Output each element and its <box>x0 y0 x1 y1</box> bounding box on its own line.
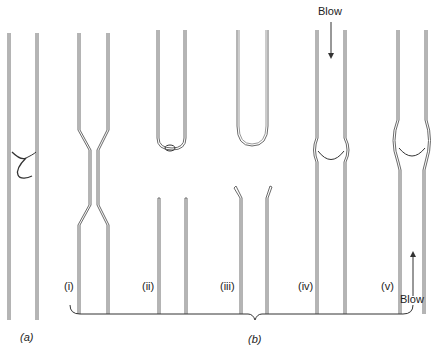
blow-label-v: Blow <box>400 293 424 305</box>
tube-iii-lower <box>234 186 272 314</box>
label-step-i: (i) <box>64 280 74 292</box>
glass-tube-diagram <box>0 0 439 357</box>
tube-a <box>8 33 38 320</box>
label-step-v: (v) <box>381 280 394 292</box>
label-b: (b) <box>248 333 261 345</box>
label-step-iv: (iv) <box>298 280 313 292</box>
tube-ii-upper <box>157 30 186 151</box>
tube-iv <box>314 30 350 314</box>
tube-iii-upper <box>237 30 268 146</box>
tube-v <box>393 30 431 314</box>
label-step-ii: (ii) <box>142 280 154 292</box>
tube-ii-lower <box>158 198 187 314</box>
label-step-iii: (iii) <box>220 280 235 292</box>
label-a: (a) <box>20 331 33 343</box>
tube-i <box>78 33 109 314</box>
blow-label-iv: Blow <box>318 5 342 17</box>
